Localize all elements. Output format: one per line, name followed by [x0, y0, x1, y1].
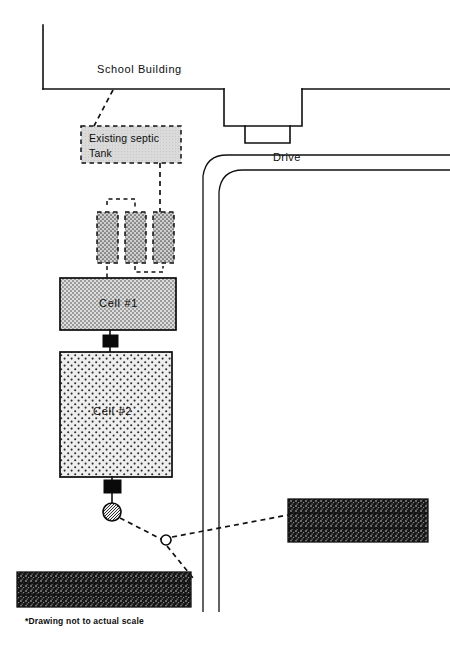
- junction-node: [161, 535, 171, 545]
- valve-box-lower-symbol: [104, 480, 121, 493]
- pipe-building-to-tank: [94, 90, 113, 126]
- site-plan-canvas: School Building Drive Existing septic Ta…: [0, 0, 450, 649]
- junction-node-symbol: [161, 535, 171, 545]
- building-entry-portico: [224, 89, 302, 143]
- school-building-label: School Building: [97, 63, 182, 75]
- drive-edge-outer: [203, 155, 450, 612]
- valve-box-upper-symbol: [103, 335, 118, 347]
- pipe-trench2-trench3: [135, 266, 163, 272]
- pipe-dbox-to-junction: [120, 518, 163, 540]
- distribution-box: [103, 503, 121, 521]
- existing-tank-label-line2: Tank: [89, 147, 113, 159]
- portico-step: [245, 126, 290, 143]
- valve-box-lower: [104, 477, 121, 505]
- leach-field-east: [288, 499, 428, 542]
- site-plan-drawing: School Building Drive Existing septic Ta…: [0, 0, 450, 649]
- drive: [203, 155, 450, 612]
- drive-edge-inner: [219, 170, 450, 612]
- pipe-junction-to-east-field: [172, 515, 288, 537]
- trench-2: [125, 212, 146, 263]
- leach-field-south: [17, 572, 191, 607]
- leach-field-south-box: [17, 572, 191, 607]
- distribution-box-symbol: [103, 503, 121, 521]
- valve-box-upper: [103, 330, 118, 352]
- drive-label: Drive: [273, 151, 301, 163]
- cell-1-label: Cell #1: [99, 297, 138, 309]
- trench-3: [153, 212, 174, 263]
- cell-2-label: Cell #2: [93, 405, 132, 417]
- pipe-trench1-trench2: [107, 199, 135, 207]
- trench-1: [97, 212, 118, 263]
- portico-outer: [224, 89, 302, 126]
- school-building: [43, 25, 450, 89]
- leach-field-east-box: [288, 499, 428, 542]
- scale-note: *Drawing not to actual scale: [25, 616, 144, 626]
- existing-tank-label-line1: Existing septic: [89, 132, 159, 144]
- trench-group: [97, 199, 174, 278]
